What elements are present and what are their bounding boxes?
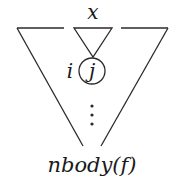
tree-diagram: x j i nbody(f) (0, 0, 178, 188)
top-label-x: x (87, 0, 98, 24)
outer-triangle-right-arm (101, 28, 168, 146)
node-index-label-i: i (67, 59, 73, 83)
vertical-ellipsis (90, 104, 93, 125)
outer-triangle-left-arm (17, 28, 83, 146)
bottom-label-nbody: nbody(f) (47, 153, 136, 177)
inner-subtree-triangle (74, 28, 112, 57)
node-label-j: j (85, 59, 95, 83)
